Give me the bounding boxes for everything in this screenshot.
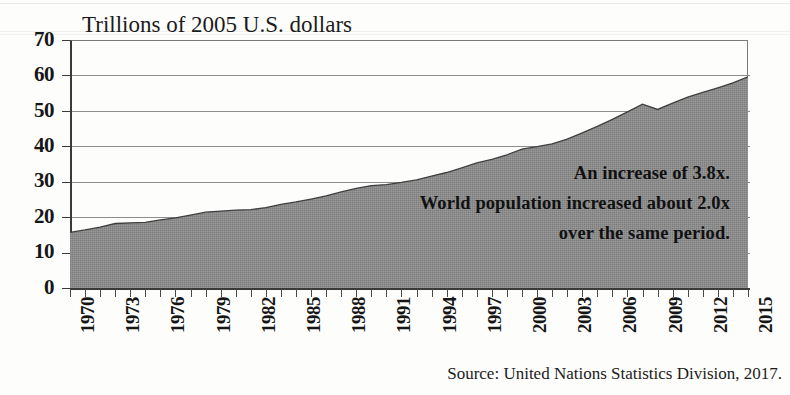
x-tick-mark	[175, 289, 176, 297]
x-tick-mark	[221, 289, 222, 297]
chart-figure: Trillions of 2005 U.S. dollars 70 60 50 …	[0, 0, 790, 395]
x-tick-mark	[582, 289, 583, 297]
x-tick-mark	[507, 289, 508, 297]
x-tick-mark	[251, 289, 252, 297]
x-tick-label: 1982	[258, 297, 280, 333]
x-tick-label: 2009	[665, 297, 687, 333]
x-tick-mark	[447, 289, 448, 297]
x-tick-mark	[85, 289, 86, 297]
x-tick-mark	[643, 289, 644, 297]
x-tick-label: 1994	[439, 297, 461, 333]
x-tick-mark	[432, 289, 433, 297]
chart-title: Trillions of 2005 U.S. dollars	[82, 12, 352, 38]
x-tick-label: 1988	[348, 297, 370, 333]
y-tick-label: 20	[8, 206, 54, 227]
x-tick-mark	[145, 289, 146, 297]
x-tick-mark	[191, 289, 192, 297]
annotation-line-1: An increase of 3.8x.	[330, 158, 730, 188]
x-tick-mark	[627, 289, 628, 297]
x-tick-label: 2003	[574, 297, 596, 333]
y-tick-label: 70	[8, 29, 54, 50]
x-tick-label: 1970	[77, 297, 99, 333]
y-tick-label: 10	[8, 241, 54, 262]
chart-annotation: An increase of 3.8x. World population in…	[330, 158, 730, 248]
x-tick-mark	[537, 289, 538, 297]
x-tick-mark	[371, 289, 372, 297]
x-tick-mark	[612, 289, 613, 297]
x-tick-mark	[567, 289, 568, 297]
annotation-line-3: over the same period.	[330, 218, 730, 248]
x-tick-mark	[688, 289, 689, 297]
x-tick-mark	[100, 289, 101, 297]
x-tick-label: 2006	[619, 297, 641, 333]
y-tick-label: 30	[8, 170, 54, 191]
annotation-line-2: World population increased about 2.0x	[330, 188, 730, 218]
x-tick-mark	[597, 289, 598, 297]
x-tick-mark	[703, 289, 704, 297]
scan-artifact	[0, 3, 790, 4]
x-tick-mark	[477, 289, 478, 297]
x-tick-mark	[356, 289, 357, 297]
x-tick-mark	[206, 289, 207, 297]
x-tick-label: 1991	[393, 297, 415, 333]
x-tick-mark	[492, 289, 493, 297]
x-axis-line	[70, 288, 750, 290]
x-tick-mark	[386, 289, 387, 297]
x-tick-mark	[236, 289, 237, 297]
x-tick-mark	[266, 289, 267, 297]
x-tick-mark	[462, 289, 463, 297]
x-tick-mark	[341, 289, 342, 297]
x-tick-label: 1973	[122, 297, 144, 333]
x-tick-mark	[718, 289, 719, 297]
x-tick-label: 1997	[484, 297, 506, 333]
x-tick-label: 1979	[213, 297, 235, 333]
x-tick-label: 2012	[710, 297, 732, 333]
x-tick-label: 2000	[529, 297, 551, 333]
x-tick-mark	[733, 289, 734, 297]
x-tick-label: 1976	[167, 297, 189, 333]
x-tick-mark	[417, 289, 418, 297]
x-tick-mark	[522, 289, 523, 297]
y-tick-label: 60	[8, 64, 54, 85]
x-tick-mark	[658, 289, 659, 297]
x-tick-mark	[673, 289, 674, 297]
x-tick-label: 1985	[303, 297, 325, 333]
y-tick-label: 50	[8, 100, 54, 121]
x-tick-mark	[326, 289, 327, 297]
x-tick-mark	[748, 289, 749, 297]
source-note: Source: United Nations Statistics Divisi…	[0, 364, 782, 384]
x-tick-mark	[296, 289, 297, 297]
x-tick-mark	[552, 289, 553, 297]
x-tick-mark	[115, 289, 116, 297]
y-tick-label: 40	[8, 135, 54, 156]
x-tick-mark	[130, 289, 131, 297]
y-tick-label: 0	[8, 277, 54, 298]
x-tick-mark	[160, 289, 161, 297]
x-tick-mark	[401, 289, 402, 297]
x-tick-label: 2015	[755, 297, 777, 333]
x-tick-mark	[70, 289, 71, 297]
x-tick-mark	[311, 289, 312, 297]
x-tick-mark	[281, 289, 282, 297]
